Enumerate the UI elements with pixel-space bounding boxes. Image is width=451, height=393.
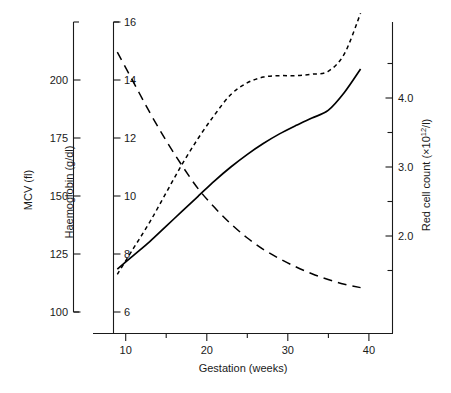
x-tick-30: 30 bbox=[282, 344, 294, 356]
x-tick-40: 40 bbox=[363, 344, 375, 356]
mcv-axis-title: MCV (fl) bbox=[22, 170, 34, 210]
mcv-tick-100: 100 bbox=[50, 306, 68, 318]
hb-tick-12: 12 bbox=[124, 132, 136, 144]
rcc-tick-30: 3.0 bbox=[398, 161, 413, 173]
svg-text:Red cell count (×1012/l): Red cell count (×1012/l) bbox=[419, 119, 432, 232]
mcv-tick-125: 125 bbox=[50, 248, 68, 260]
rcc-axis-title-head: Red cell count (×10 bbox=[420, 136, 432, 231]
hb-tick-6: 6 bbox=[124, 306, 130, 318]
mcv-curve bbox=[117, 52, 360, 287]
rcc-tick-40: 4.0 bbox=[398, 92, 413, 104]
x-axis-title: Gestation (weeks) bbox=[199, 362, 288, 374]
haemoglobin-axis-title: Haemoglobin (g/dl) bbox=[63, 146, 75, 239]
hb-tick-10: 10 bbox=[124, 190, 136, 202]
mcv-tick-175: 175 bbox=[50, 132, 68, 144]
rcc-axis-title-tail: /l) bbox=[420, 119, 432, 128]
hb-tick-16: 16 bbox=[124, 16, 136, 28]
rcc-axis-title-superscript: 12 bbox=[419, 128, 428, 136]
rcc-axis-title: Red cell count (×1012/l) bbox=[419, 119, 432, 232]
multi-axis-line-chart: 200 175 150 125 100 MCV (fl) 16 14 12 10… bbox=[0, 0, 451, 393]
haemoglobin-curve bbox=[117, 13, 360, 274]
mcv-tick-200: 200 bbox=[50, 74, 68, 86]
x-tick-10: 10 bbox=[120, 344, 132, 356]
rcc-tick-20: 2.0 bbox=[398, 230, 413, 242]
red-cell-count-axis: 4.0 3.0 2.0 Red cell count (×1012/l) bbox=[386, 22, 433, 333]
x-tick-20: 20 bbox=[201, 344, 213, 356]
chart-figure: 200 175 150 125 100 MCV (fl) 16 14 12 10… bbox=[0, 0, 451, 393]
data-curves bbox=[117, 13, 360, 287]
x-axis: 10 20 30 40 Gestation (weeks) bbox=[93, 334, 393, 375]
red-cell-count-curve bbox=[117, 69, 360, 269]
